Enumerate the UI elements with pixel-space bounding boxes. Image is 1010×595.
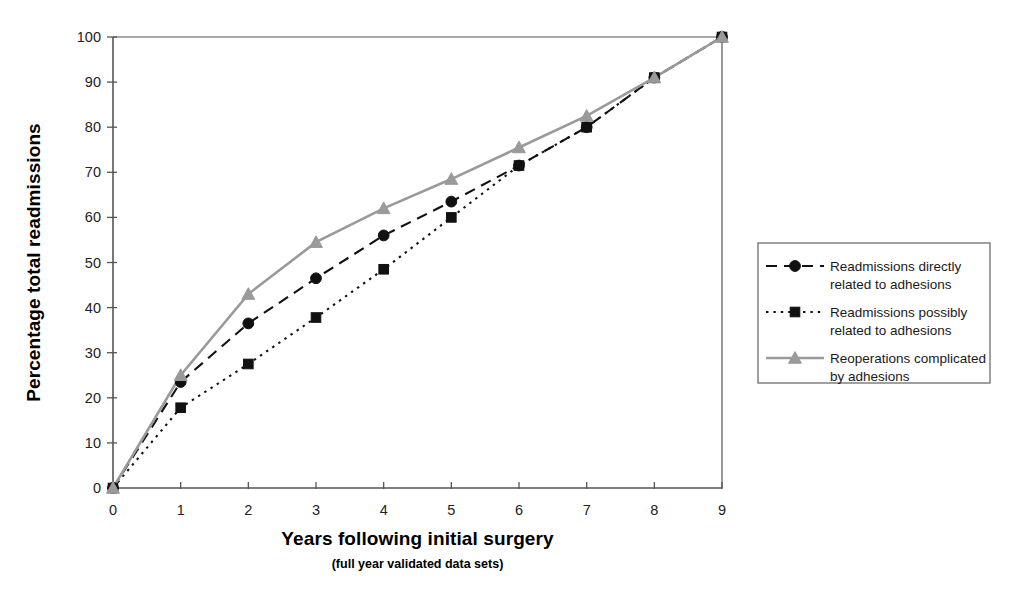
y-tick-label: 100: [77, 29, 101, 45]
data-point-2-4: [379, 264, 389, 274]
legend-marker-2: [790, 307, 800, 317]
data-point-2-3: [311, 313, 321, 323]
legend-label-2-line1: Readmissions possibly: [830, 305, 968, 320]
chart-container: 01020304050607080901000123456789Years fo…: [0, 0, 1010, 595]
data-point-2-2: [244, 359, 254, 369]
data-point-2-5: [447, 213, 457, 223]
data-point-2-6: [514, 161, 524, 171]
x-tick-label: 2: [244, 502, 252, 518]
y-tick-label: 50: [85, 255, 101, 271]
x-tick-label: 8: [650, 502, 658, 518]
x-tick-label: 3: [312, 502, 320, 518]
x-tick-label: 1: [177, 502, 185, 518]
legend-label-1-line2: related to adhesions: [830, 277, 952, 292]
data-point-1-5: [446, 196, 457, 207]
data-point-3-5: [445, 173, 458, 185]
x-tick-label: 0: [109, 502, 117, 518]
series-line-2: [113, 37, 722, 488]
data-point-1-3: [311, 273, 322, 284]
data-point-1-4: [378, 230, 389, 241]
legend-label-3-line2: by adhesions: [830, 369, 910, 384]
data-point-2-7: [582, 122, 592, 132]
legend-label-1-line1: Readmissions directly: [830, 259, 962, 274]
series-line-3: [113, 37, 722, 488]
x-axis-subtitle: (full year validated data sets): [332, 557, 504, 571]
legend-label-2-line2: related to adhesions: [830, 323, 952, 338]
y-tick-label: 40: [85, 300, 101, 316]
x-tick-label: 4: [380, 502, 388, 518]
data-point-3-7: [580, 110, 593, 122]
y-tick-label: 90: [85, 74, 101, 90]
series-line-1: [113, 37, 722, 488]
x-tick-label: 5: [447, 502, 455, 518]
data-point-3-6: [513, 141, 526, 153]
y-tick-label: 20: [85, 390, 101, 406]
y-tick-label: 80: [85, 119, 101, 135]
y-tick-label: 10: [85, 435, 101, 451]
x-axis-title: Years following initial surgery: [281, 528, 554, 549]
x-tick-label: 9: [718, 502, 726, 518]
data-point-3-3: [310, 236, 323, 248]
data-point-2-1: [176, 403, 186, 413]
x-tick-label: 7: [583, 502, 591, 518]
legend-label-3-line1: Reoperations complicated: [830, 351, 986, 366]
y-tick-label: 70: [85, 164, 101, 180]
legend-marker-1: [790, 261, 801, 272]
y-axis-title: Percentage total readmissions: [23, 123, 44, 402]
line-chart: 01020304050607080901000123456789Years fo…: [0, 0, 1010, 595]
y-tick-label: 0: [93, 480, 101, 496]
x-tick-label: 6: [515, 502, 523, 518]
y-tick-label: 60: [85, 209, 101, 225]
data-point-1-2: [243, 318, 254, 329]
y-tick-label: 30: [85, 345, 101, 361]
